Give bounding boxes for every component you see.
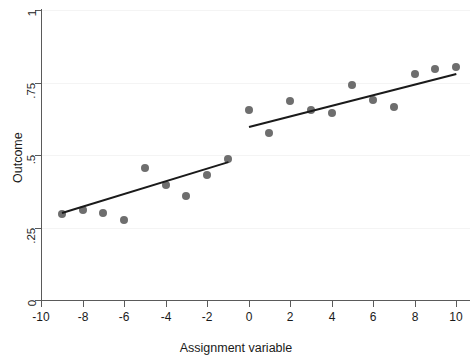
- gridline: [42, 10, 470, 11]
- scatter-point: [203, 171, 211, 179]
- x-tick: [373, 301, 374, 307]
- x-tick: [166, 301, 167, 307]
- y-tick-label: .25: [26, 228, 38, 244]
- scatter-point: [120, 216, 128, 224]
- x-tick: [124, 301, 125, 307]
- scatter-point: [411, 70, 419, 78]
- x-tick-label: 2: [270, 311, 310, 323]
- scatter-point: [431, 65, 439, 73]
- x-tick-label: -10: [21, 311, 61, 323]
- x-tick-label: 8: [395, 311, 435, 323]
- x-tick: [290, 301, 291, 307]
- scatter-point: [141, 164, 149, 172]
- gridline: [42, 228, 470, 229]
- scatter-point: [452, 63, 460, 71]
- scatter-point: [348, 81, 356, 89]
- y-tick-label: .5: [26, 155, 38, 165]
- x-tick-label: -4: [146, 311, 186, 323]
- y-axis-title: Outcome: [12, 132, 25, 183]
- x-tick: [415, 301, 416, 307]
- scatter-point: [369, 96, 377, 104]
- x-tick-label: 0: [229, 311, 269, 323]
- x-tick: [332, 301, 333, 307]
- x-tick: [207, 301, 208, 307]
- x-tick: [456, 301, 457, 307]
- gridline: [42, 155, 470, 156]
- y-tick-label: 0: [26, 300, 38, 306]
- x-tick: [83, 301, 84, 307]
- x-tick-label: -6: [104, 311, 144, 323]
- rd-scatter-chart: Outcome Assignment variable 0.25.5.751-1…: [0, 0, 472, 362]
- y-tick-label: .75: [26, 83, 38, 99]
- x-tick: [249, 301, 250, 307]
- y-tick-label: 1: [26, 10, 38, 16]
- scatter-point: [390, 103, 398, 111]
- x-axis-title: Assignment variable: [0, 342, 472, 355]
- scatter-point: [328, 109, 336, 117]
- scatter-point: [182, 192, 190, 200]
- scatter-point: [286, 97, 294, 105]
- x-tick-label: 6: [353, 311, 393, 323]
- scatter-point: [265, 129, 273, 137]
- scatter-point: [245, 106, 253, 114]
- x-tick-label: 4: [312, 311, 352, 323]
- x-tick-label: -8: [63, 311, 103, 323]
- x-axis-line: [41, 300, 470, 301]
- gridline: [42, 83, 470, 84]
- x-tick-label: -2: [187, 311, 227, 323]
- x-tick-label: 10: [436, 311, 472, 323]
- scatter-point: [99, 209, 107, 217]
- x-tick: [41, 301, 42, 307]
